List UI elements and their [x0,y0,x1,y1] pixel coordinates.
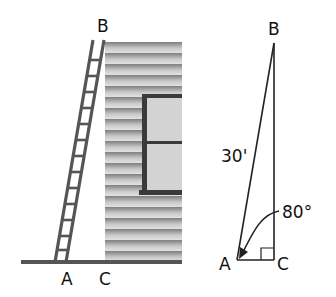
scene-label-c: C [99,269,111,289]
ground-line [21,260,182,264]
triangle-label-c: C [277,254,289,274]
triangle-label-b: B [268,19,280,39]
angle-label: 80° [282,202,312,222]
ladder [55,40,104,262]
scene-label-a: A [61,269,73,289]
window [139,94,182,195]
scene-label-b: B [97,16,109,36]
angle-arrow [239,211,279,259]
ladder-diagram: B A C B A C 30' 80° [0,0,336,297]
right-angle-marker [261,248,274,260]
triangle-label-a: A [219,254,231,274]
hypotenuse-length-label: 30' [221,146,247,166]
